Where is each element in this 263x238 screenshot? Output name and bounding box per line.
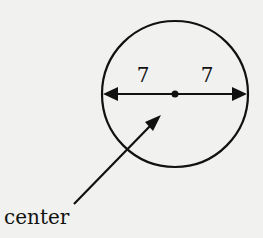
left-arrowhead-icon [103,87,118,101]
right-arrowhead-icon [232,87,247,101]
circle-diagram: 7 7 center [0,0,263,238]
center-label: center [4,205,70,229]
left-radius-label: 7 [137,63,150,87]
pointer-line [74,124,152,204]
right-radius-label: 7 [201,63,214,87]
center-point [172,91,179,98]
